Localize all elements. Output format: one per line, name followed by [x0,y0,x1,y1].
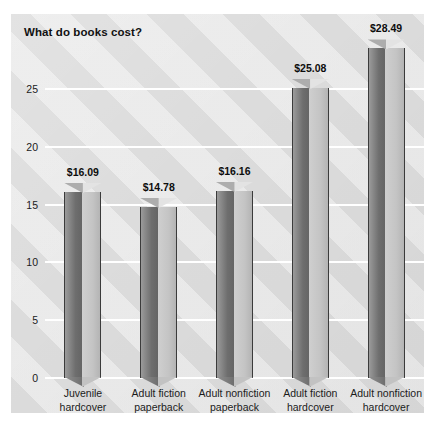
category-axis-label-line: hardcover [45,400,121,413]
bar-top-left-facet [292,79,311,89]
bar-value-label: $16.16 [218,165,250,177]
bar-top-left-facet [64,183,83,193]
plot-area: 0510152025$16.09$14.78$16.16$25.08$28.49 [45,31,424,378]
bar-bottom-left-facet [216,377,236,387]
bar-bottom-point [292,377,329,387]
bar-bottom-point [368,377,405,387]
bar-bottom-left-facet [368,377,388,387]
category-axis-label-line: hardcover [272,400,348,413]
y-axis-tick-label: 15 [26,199,38,211]
bar-top-right-facet [310,79,329,89]
bar-right-face [158,207,178,378]
bar: $16.16 [216,191,253,378]
bar-top-notch [140,198,177,208]
bar-bottom-right-facet [234,377,254,387]
category-axis-label-line: Adult fiction [121,386,197,400]
bar-top-notch [368,39,405,49]
bar-bottom-right-facet [385,377,405,387]
bar: $14.78 [140,207,177,378]
bar-bottom-right-facet [158,377,178,387]
bar-bottom-point [216,377,253,387]
y-axis-tick-label: 5 [32,314,38,326]
bar-top-left-facet [140,198,159,208]
bar-bottom-right-facet [309,377,329,387]
category-axis-label-line: Adult nonfiction [348,386,424,400]
bar-top-right-facet [386,39,405,49]
bar-top-notch [64,183,101,193]
bar-right-face [82,192,102,378]
bar-top-left-facet [216,182,235,192]
category-axis-label-line: Adult nonfiction [197,386,273,400]
bar-bottom-left-facet [292,377,312,387]
y-axis-tick-label: 10 [26,256,38,268]
category-axis-label: Adult fictionpaperback [121,386,197,413]
category-axis-label: Adult nonfictionhardcover [348,386,424,413]
bar-value-label: $16.09 [67,166,99,178]
y-axis-tick-label: 0 [32,372,38,384]
bar-bottom-left-facet [64,377,84,387]
category-axis-label: Juvenilehardcover [45,386,121,413]
category-axis-label-line: Adult fiction [272,386,348,400]
y-axis-tick-label: 25 [26,83,38,95]
bar-bottom-left-facet [140,377,160,387]
category-axis-label: Adult nonfictionpaperback [197,386,273,413]
bar-chart-figure: What do books cost? 0510152025$16.09$14.… [11,14,424,413]
bar: $16.09 [64,192,101,378]
bar-right-face [309,88,329,378]
bar-right-face [385,48,405,378]
bar-top-notch [292,79,329,89]
bar-top-right-facet [83,183,102,193]
bar-value-label: $14.78 [143,181,175,193]
bar-bottom-point [140,377,177,387]
category-axis-label-line: paperback [197,400,273,413]
category-axis: JuvenilehardcoverAdult fictionpaperbackA… [45,386,424,413]
category-axis-label-line: hardcover [348,400,424,413]
bar-bottom-right-facet [82,377,102,387]
bar-value-label: $25.08 [294,62,326,74]
y-axis-tick-label: 20 [26,141,38,153]
bar-top-right-facet [159,198,178,208]
category-axis-label-line: paperback [121,400,197,413]
bar-right-face [234,191,254,378]
bar: $28.49 [368,48,405,378]
bar-value-label: $28.49 [370,22,402,34]
category-axis-label-line: Juvenile [45,386,121,400]
chart-title: What do books cost? [24,26,142,38]
bar-top-right-facet [235,182,254,192]
bar-bottom-point [64,377,101,387]
bar: $25.08 [292,88,329,378]
bar-top-notch [216,182,253,192]
bar-top-left-facet [368,39,387,49]
category-axis-label: Adult fictionhardcover [272,386,348,413]
